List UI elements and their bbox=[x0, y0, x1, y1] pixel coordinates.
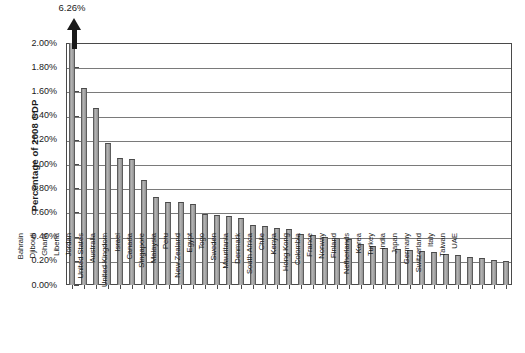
y-tick-label: 0.60% bbox=[5, 208, 57, 217]
y-tick-label: 1.20% bbox=[5, 135, 57, 144]
x-label-taiwan: Taiwan bbox=[439, 233, 447, 291]
x-label-liberia: Liberia bbox=[53, 233, 61, 291]
x-label-togo: Togo bbox=[198, 233, 206, 291]
x-label-finland: Finland bbox=[330, 233, 338, 291]
bar-uae bbox=[503, 261, 509, 285]
x-label-bahrain: Bahrain bbox=[17, 233, 25, 291]
x-label-united-states: United States bbox=[77, 233, 85, 291]
x-label-netherlands: Netherlands bbox=[343, 233, 351, 291]
x-label-chile: Chile bbox=[258, 233, 266, 291]
bar-italy bbox=[479, 258, 485, 285]
y-tick-label: 1.60% bbox=[5, 87, 57, 96]
x-label-italy: Italy bbox=[427, 233, 435, 291]
x-axis-labels: BahrainDjiboutiGhanaLiberiaJordanUnited … bbox=[66, 291, 512, 353]
x-label-france: France bbox=[306, 233, 314, 291]
bar-taiwan bbox=[491, 260, 497, 285]
x-label-egypt: Egypt bbox=[186, 233, 194, 291]
x-label-germany: Germany bbox=[403, 233, 411, 291]
x-label-israel: Israel bbox=[114, 233, 122, 291]
x-label-south-africa: South Africa bbox=[246, 233, 254, 291]
x-label-switzerland: Switzerland bbox=[415, 233, 423, 291]
y-tick-label: 0.80% bbox=[5, 184, 57, 193]
axis-break-value-label: 6.26% bbox=[47, 3, 97, 13]
x-label-uae: UAE bbox=[451, 233, 459, 291]
x-tick-mark bbox=[470, 285, 471, 289]
x-label-peru: Peru bbox=[162, 233, 170, 291]
y-tick-label: 1.00% bbox=[5, 160, 57, 169]
x-label-kenya: Kenya bbox=[270, 233, 278, 291]
x-label-india: India bbox=[379, 233, 387, 291]
x-label-ghana: Ghana bbox=[41, 233, 49, 291]
bar-switzerland bbox=[467, 257, 473, 285]
x-label-japan: Japan bbox=[391, 233, 399, 291]
x-label-australia: Australia bbox=[89, 233, 97, 291]
x-label-korea: Korea bbox=[355, 233, 363, 291]
y-tick-label: 1.80% bbox=[5, 63, 57, 72]
bar-chart: Percentage of 2008 GDP 0.00%0.20%0.40%0.… bbox=[0, 0, 525, 353]
x-label-norway: Norway bbox=[318, 233, 326, 291]
x-label-colombia: Colombia bbox=[294, 233, 302, 291]
x-label-turkey: Turkey bbox=[367, 233, 375, 291]
x-tick-mark bbox=[506, 285, 507, 289]
x-label-united-kingdom: United Kingdom bbox=[101, 233, 109, 291]
x-label-singapore: Singapore bbox=[138, 233, 146, 291]
y-tick-label: 1.40% bbox=[5, 111, 57, 120]
x-tick-mark bbox=[494, 285, 495, 289]
x-label-hong-kong: Hong Kong bbox=[282, 233, 290, 291]
x-label-sweden: Sweden bbox=[210, 233, 218, 291]
x-label-mauritania: Mauritania bbox=[222, 233, 230, 291]
x-label-denmark: Denmark bbox=[234, 233, 242, 291]
x-label-malaysia: Malaysia bbox=[150, 233, 158, 291]
x-label-canada: Canada bbox=[126, 233, 134, 291]
y-tick-label: 2.00% bbox=[5, 39, 57, 48]
x-label-jordan: Jordan bbox=[65, 233, 73, 291]
x-tick-mark bbox=[482, 285, 483, 289]
x-label-new-zealand: New Zealand bbox=[174, 233, 182, 291]
x-label-djibouti: Djibouti bbox=[29, 233, 37, 291]
